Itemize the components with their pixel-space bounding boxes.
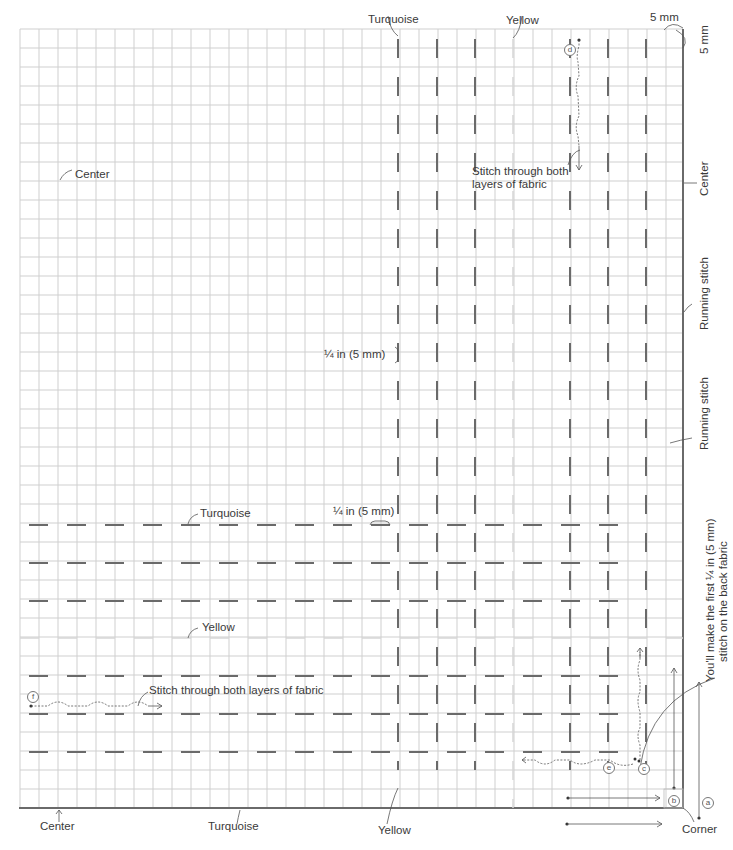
fabric-grid — [19, 29, 684, 808]
stitch-grid-diagram — [0, 0, 733, 850]
leader-corner — [683, 808, 694, 822]
marker-a: a — [702, 797, 714, 809]
path-f-arrow — [148, 703, 162, 709]
label-right-note-1: You'll make the first ¼ in (5 mm) — [704, 519, 717, 682]
label-stitch-bottom: Stitch through both layers of fabric — [149, 684, 324, 697]
label-quarter-in-vertical: ¼ in (5 mm) — [324, 348, 385, 361]
leader-running-2 — [670, 438, 692, 443]
leader-running-1 — [684, 304, 692, 312]
leader-center-left — [60, 170, 72, 180]
path-e — [525, 760, 633, 765]
label-corner: Corner — [682, 823, 717, 836]
path-c — [638, 652, 640, 760]
marker-d: d — [564, 44, 576, 56]
marker-b: b — [668, 795, 680, 807]
label-row-yellow: Yellow — [202, 621, 235, 634]
marker-c: c — [638, 763, 650, 775]
label-row-turquoise: Turquoise — [200, 507, 251, 520]
marker-e: e — [603, 762, 615, 774]
label-bottom-yellow: Yellow — [378, 824, 411, 837]
label-bottom-center: Center — [40, 820, 75, 833]
label-top-yellow: Yellow — [506, 14, 539, 27]
label-right-note-2: stitch on the back fabric — [717, 541, 730, 662]
label-top-turquoise: Turquoise — [368, 13, 419, 26]
label-center-left: Center — [75, 168, 110, 181]
path-a-h — [567, 821, 662, 827]
label-stitch-top-2: layers of fabric — [472, 178, 547, 191]
label-5mm-vertical: 5 mm — [698, 25, 711, 54]
label-stitch-top-1: Stitch through both — [472, 165, 569, 178]
path-b-h — [568, 795, 660, 801]
marker-f: f — [27, 691, 39, 703]
path-f — [31, 702, 148, 706]
stitch-lines — [20, 39, 683, 808]
path-a — [696, 682, 702, 818]
label-5mm-horizontal: 5 mm — [650, 11, 679, 24]
path-d — [576, 40, 579, 146]
point-c-2 — [638, 760, 641, 763]
point-c-1 — [634, 758, 637, 761]
label-running-stitch-1: Running stitch — [698, 257, 711, 330]
label-running-stitch-2: Running stitch — [698, 377, 711, 450]
label-center-right: Center — [698, 161, 711, 196]
leader-right-note — [640, 678, 715, 768]
annotation-lines — [29, 16, 715, 827]
leader-bottom-yellow — [387, 788, 398, 824]
label-quarter-in-horizontal: ¼ in (5 mm) — [333, 505, 394, 518]
path-d-arrow — [576, 146, 582, 170]
label-bottom-turquoise: Turquoise — [208, 820, 259, 833]
